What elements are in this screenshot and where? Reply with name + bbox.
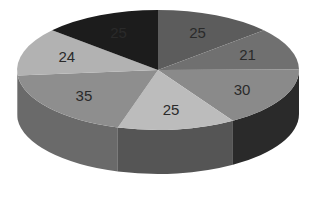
pie-side-6	[17, 70, 18, 120]
data-label-5: 35	[76, 87, 93, 104]
pie-slices	[17, 10, 299, 130]
data-label-6: 24	[58, 48, 75, 65]
data-label-1: 25	[189, 24, 206, 41]
data-label-2: 21	[239, 46, 256, 63]
data-label-7: 25	[110, 24, 127, 41]
data-label-4: 25	[163, 101, 180, 118]
pie-chart: 25213025352425	[0, 0, 316, 197]
data-label-3: 30	[234, 81, 251, 98]
